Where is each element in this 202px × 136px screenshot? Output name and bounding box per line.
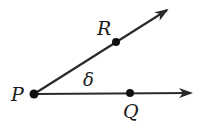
point-r [112, 38, 120, 46]
ray-pq [34, 93, 191, 94]
point-q [126, 89, 134, 97]
angle-label-delta: δ [83, 69, 94, 90]
angle-diagram: P R Q δ [0, 0, 202, 136]
point-p [30, 90, 39, 99]
label-p: P [10, 83, 25, 105]
label-r: R [96, 17, 111, 39]
label-q: Q [123, 100, 139, 122]
